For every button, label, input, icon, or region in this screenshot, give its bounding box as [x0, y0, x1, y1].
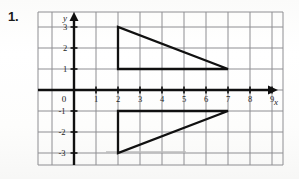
- x-tick-label-2: 2: [116, 94, 120, 104]
- coordinate-graph: 0 1 2 3 4 5 6 7 8 9 3 2 1 -1 -2 -3 y x: [36, 10, 286, 168]
- y-tick-label-3: 3: [63, 22, 67, 32]
- x-tick-label-7: 7: [226, 94, 230, 104]
- x-tick-label-3: 3: [138, 94, 142, 104]
- x-axis-label: x: [273, 97, 278, 107]
- origin-label: 0: [62, 94, 67, 104]
- y-axis: [70, 12, 79, 165]
- problem-number-label: 1.: [8, 9, 18, 24]
- y-tick-label-1: 1: [63, 64, 67, 74]
- x-tick-label-1: 1: [94, 94, 98, 104]
- y-axis-label: y: [62, 13, 67, 23]
- y-tick-label-neg-2: -2: [58, 127, 65, 137]
- x-tick-label-5: 5: [182, 94, 186, 104]
- y-tick-label-neg-1: -1: [58, 106, 65, 116]
- y-tick-label-neg-3: -3: [58, 148, 65, 158]
- x-tick-label-8: 8: [248, 94, 252, 104]
- graph-svg: 0 1 2 3 4 5 6 7 8 9 3 2 1 -1 -2 -3 y x: [36, 10, 286, 168]
- x-tick-label-4: 4: [160, 94, 165, 104]
- x-tick-label-6: 6: [204, 94, 208, 104]
- y-tick-label-2: 2: [63, 43, 67, 53]
